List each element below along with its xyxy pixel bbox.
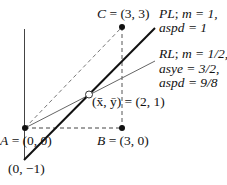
point-b-marker [119, 125, 125, 131]
rl-aspd-label: aspd = 9/8 [159, 75, 218, 90]
point-c-marker [119, 24, 125, 30]
pl-aspd-label: aspd = 1 [159, 20, 207, 35]
intercept-label: (0, −1) [8, 161, 45, 176]
rl-label: RL; m = 1/2, [159, 46, 227, 61]
point-c-label: C = (3, 3) [97, 6, 150, 21]
point-a-label: A = (0, 0) [0, 133, 52, 148]
dashed-line-a-c [25, 27, 122, 128]
point-b-label: B = (3, 0) [97, 133, 149, 148]
mean-point-label: (x̄, ȳ) = (2, 1) [92, 94, 165, 109]
rl-asye-label: asye = 3/2, [159, 61, 219, 76]
point-a-marker [22, 125, 28, 131]
pl-label: PL; m = 1, [159, 6, 218, 21]
